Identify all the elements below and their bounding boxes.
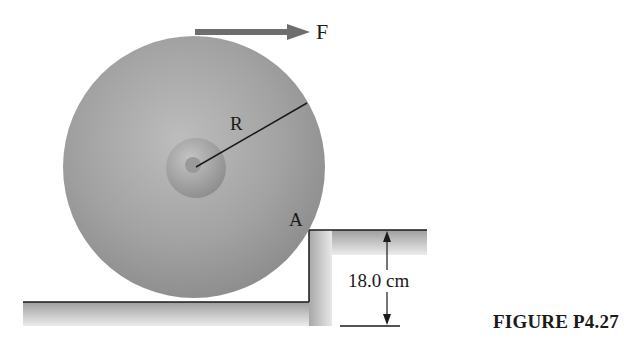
step-height-label: 18.0 cm — [347, 270, 410, 292]
force-label: F — [316, 19, 328, 45]
figure-canvas — [0, 0, 624, 357]
radius-label: R — [230, 113, 243, 135]
ground-lower — [23, 302, 332, 326]
figure-caption: FIGURE P4.27 — [493, 311, 619, 333]
wheel — [63, 36, 325, 298]
point-a-label: A — [289, 209, 303, 231]
